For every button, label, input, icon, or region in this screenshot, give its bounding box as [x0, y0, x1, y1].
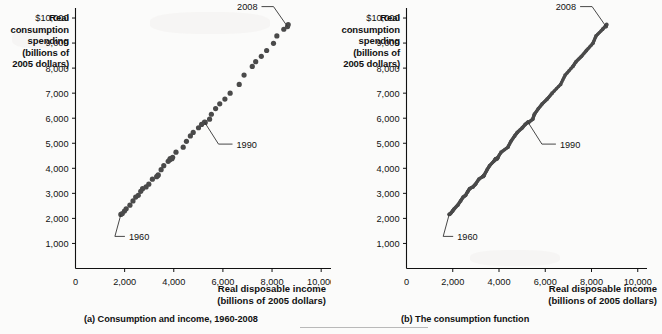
data-point: [274, 33, 279, 38]
y-tick-label: 5,000: [46, 139, 69, 149]
panel-b: Real consumption spending (billions of 2…: [331, 0, 662, 334]
panel-b-plot-area: $10,0009,0008,0007,0006,0005,0004,0003,0…: [331, 0, 662, 300]
bottom-rule: [300, 327, 428, 328]
annotation-label-1960: 1960: [457, 232, 477, 242]
y-tick-label: 7,000: [46, 89, 69, 99]
data-point: [222, 97, 227, 102]
data-point: [127, 203, 132, 208]
panel-a-axes: [76, 8, 332, 269]
y-tick-label: 5,000: [377, 139, 400, 149]
y-tick-label: 3,000: [377, 189, 400, 199]
data-point: [237, 82, 242, 87]
y-tick-label: 6,000: [46, 114, 69, 124]
data-point: [253, 59, 258, 64]
data-point: [271, 41, 276, 46]
annotation-leader-line: [262, 7, 288, 27]
y-tick-label: 9,000: [377, 38, 400, 48]
data-point: [156, 172, 161, 177]
y-tick-label: 3,000: [46, 189, 69, 199]
annotation-label-1960: 1960: [129, 232, 149, 242]
annotation-leader-line: [205, 122, 233, 144]
annotation-leader-line: [528, 122, 556, 144]
panel-b-axes: [407, 8, 648, 269]
x-axis-title-line: (billions of 2005 dollars): [477, 295, 657, 307]
panel-b-y-ticks: $10,0009,0008,0007,0006,0005,0004,0003,0…: [366, 13, 406, 248]
y-tick-label: 8,000: [377, 64, 400, 74]
panel-b-x-axis-title: Real disposable income (billions of 2005…: [477, 283, 657, 306]
panel-a-y-ticks: $10,0009,0008,0007,0006,0005,0004,0003,0…: [35, 13, 75, 248]
y-tick-label: 8,000: [46, 64, 69, 74]
y-tick-label: $10,000: [366, 13, 399, 23]
x-tick-label: 2,000: [441, 277, 464, 287]
annotation-label-1990: 1990: [237, 140, 257, 150]
data-point: [264, 48, 269, 53]
data-point: [259, 54, 264, 59]
data-point: [241, 72, 246, 77]
data-point: [209, 112, 214, 117]
panel-b-annotations: 196019902008: [443, 2, 606, 242]
x-tick-label: 0: [404, 277, 409, 287]
panel-a: Real consumption spending (billions of 2…: [0, 0, 331, 334]
annotation-label-2008: 2008: [556, 2, 576, 12]
panel-a-plot-area: $10,0009,0008,0007,0006,0005,0004,0003,0…: [0, 0, 331, 300]
data-point: [191, 130, 196, 135]
y-tick-label: 6,000: [377, 114, 400, 124]
data-point: [217, 101, 222, 106]
x-axis-title-line: Real disposable income: [477, 283, 657, 295]
data-point: [146, 182, 151, 187]
data-point: [184, 139, 189, 144]
panel-a-caption: (a) Consumption and income, 1960-2008: [84, 314, 258, 324]
annotation-label-1990: 1990: [560, 140, 580, 150]
annotation-leader-line: [443, 214, 453, 236]
y-tick-label: 4,000: [46, 164, 69, 174]
x-tick-label: 2,000: [113, 277, 136, 287]
y-tick-label: 2,000: [46, 214, 69, 224]
data-point: [161, 163, 166, 168]
data-point: [181, 145, 186, 150]
data-point: [124, 206, 129, 211]
panel-a-data-points: [118, 22, 291, 217]
panel-b-data-points: [447, 23, 608, 217]
y-tick-label: 9,000: [46, 38, 69, 48]
y-tick-label: 1,000: [377, 239, 400, 249]
panel-a-x-axis-title: Real disposable income (billions of 2005…: [146, 283, 326, 306]
data-point: [173, 150, 178, 155]
data-point: [207, 117, 212, 122]
x-axis-title-line: (billions of 2005 dollars): [146, 295, 326, 307]
annotation-label-2008: 2008: [237, 2, 257, 12]
data-point: [250, 64, 255, 69]
annotation-leader-line: [115, 214, 125, 236]
figure-consumption-and-income: Real consumption spending (billions of 2…: [0, 0, 662, 334]
y-tick-label: 7,000: [377, 89, 400, 99]
y-tick-label: $10,000: [35, 13, 68, 23]
panel-b-caption: (b) The consumption function: [401, 314, 529, 324]
x-axis-title-line: Real disposable income: [146, 283, 326, 295]
panel-b-svg: $10,0009,0008,0007,0006,0005,0004,0003,0…: [331, 0, 662, 300]
data-point: [213, 106, 218, 111]
annotation-leader-line: [580, 7, 606, 27]
data-point: [170, 155, 175, 160]
panel-a-svg: $10,0009,0008,0007,0006,0005,0004,0003,0…: [0, 0, 331, 300]
y-tick-label: 4,000: [377, 164, 400, 174]
data-point: [228, 91, 233, 96]
x-tick-label: 0: [73, 277, 78, 287]
y-tick-label: 2,000: [377, 214, 400, 224]
y-tick-label: 1,000: [46, 239, 69, 249]
